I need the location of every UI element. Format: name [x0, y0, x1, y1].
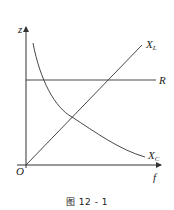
xl-label: XL — [146, 39, 157, 52]
y-axis-label: z — [18, 24, 22, 35]
x-axis-label: f — [153, 172, 156, 183]
xc-symbol: X — [148, 149, 155, 161]
r-label: R — [159, 75, 166, 86]
xc-subscript: C — [155, 155, 160, 163]
origin-label: O — [16, 166, 24, 177]
figure-caption: 图 12 - 1 — [0, 195, 174, 208]
impedance-frequency-diagram: z f O XL R XC 图 12 - 1 — [0, 0, 174, 210]
diagram-canvas — [0, 0, 174, 210]
inductive-reactance-line — [26, 45, 142, 165]
xl-symbol: X — [146, 38, 153, 50]
xl-subscript: L — [153, 44, 157, 52]
xc-label: XC — [148, 150, 159, 163]
